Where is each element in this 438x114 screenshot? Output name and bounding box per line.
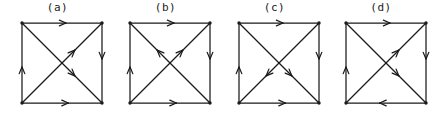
directed-graph [0,18,115,114]
figure-panel-b: (b) [108,0,223,114]
figure-panel-d: (d) [324,0,438,114]
figure-caption: (a) [0,1,115,15]
vertex-bottom-left [20,101,23,104]
figure-caption: (c) [217,1,332,15]
vertex-bottom-left [237,101,240,104]
figure-panel-a: (a) [0,0,115,114]
vertex-top-right [100,21,103,24]
figure-panel-c: (c) [217,0,332,114]
vertex-top-right [208,21,211,24]
figure-graph [324,18,438,114]
directed-graph [108,18,223,114]
figure-graph [217,18,332,114]
vertex-top-right [424,21,427,24]
vertex-bottom-right [208,101,211,104]
directed-graph [217,18,332,114]
figure-caption: (b) [108,1,223,15]
vertex-bottom-right [100,101,103,104]
vertex-top-left [344,21,347,24]
vertex-top-left [20,21,23,24]
vertex-bottom-right [424,101,427,104]
vertex-bottom-left [344,101,347,104]
vertex-bottom-right [317,101,320,104]
directed-graph [324,18,438,114]
vertex-top-left [128,21,131,24]
vertex-top-left [237,21,240,24]
figure-caption: (d) [324,1,438,15]
vertex-bottom-left [128,101,131,104]
figure-graph [108,18,223,114]
figure-graph [0,18,115,114]
vertex-top-right [317,21,320,24]
figure-sheet: (a)(b)(c)(d) [0,0,438,114]
